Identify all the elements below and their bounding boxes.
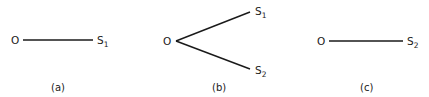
target-node-label-s2: S2 [255,64,267,79]
target-node-label-s1: S1 [255,5,267,20]
edge-o-s1 [176,12,250,41]
panel-c: O S2 (c) [317,35,419,93]
panel-b: O S1 S2 (b) [163,5,267,93]
panel-caption: (c) [360,82,373,93]
target-node-label-s1: S1 [97,34,109,49]
panel-a: O S1 (a) [11,34,109,93]
target-node-label-s2: S2 [407,35,419,50]
panel-caption: (b) [212,82,226,93]
edge-o-s2 [176,41,250,69]
panel-caption: (a) [51,82,65,93]
origin-node-label: O [163,35,171,47]
diagram: O S1 (a) O S1 S2 (b) O S2 (c) [0,0,429,97]
origin-node-label: O [317,35,325,47]
origin-node-label: O [11,34,19,46]
